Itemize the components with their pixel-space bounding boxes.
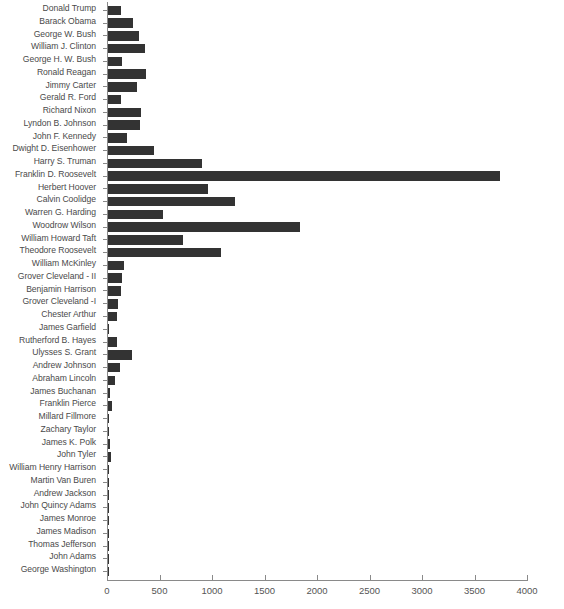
category-label: Millard Fillmore	[39, 411, 96, 422]
category-label: Calvin Coolidge	[37, 194, 96, 205]
category-label: James Monroe	[40, 513, 96, 524]
bar	[107, 184, 208, 194]
category-label: William McKinley	[32, 258, 96, 269]
category-label: Andrew Jackson	[34, 488, 96, 499]
bar	[107, 171, 500, 181]
category-label: Theodore Roosevelt	[20, 245, 97, 256]
category-label: James Madison	[36, 526, 96, 537]
x-tick-mark	[265, 575, 266, 581]
bar	[107, 82, 137, 92]
x-tick-mark	[527, 575, 528, 581]
y-axis-line	[107, 2, 108, 580]
bar	[107, 95, 121, 105]
category-label: John Quincy Adams	[20, 500, 96, 511]
category-label: Harry S. Truman	[34, 156, 96, 167]
bar	[107, 31, 139, 41]
bar	[107, 6, 121, 16]
bar	[107, 133, 127, 143]
category-label: Ulysses S. Grant	[32, 347, 96, 358]
presidents-bar-chart: Donald TrumpBarack ObamaGeorge W. BushWi…	[0, 0, 564, 609]
x-tick-label: 2500	[359, 585, 380, 596]
bar	[107, 376, 115, 386]
category-label: Grover Cleveland -I	[22, 296, 96, 307]
bar	[107, 222, 300, 232]
x-tick-label: 1500	[254, 585, 275, 596]
category-label: Donald Trump	[43, 3, 96, 14]
category-label: Grover Cleveland - II	[18, 271, 96, 282]
category-label: William J. Clinton	[31, 41, 96, 52]
category-label: George W. Bush	[34, 29, 96, 40]
category-label: Herbert Hoover	[38, 182, 96, 193]
category-label: Zachary Taylor	[41, 424, 97, 435]
category-label: Dwight D. Eisenhower	[12, 143, 96, 154]
bar	[107, 363, 120, 373]
category-label: John F. Kennedy	[33, 131, 96, 142]
x-tick-mark	[370, 575, 371, 581]
x-tick-mark	[160, 575, 161, 581]
category-label: Richard Nixon	[43, 105, 96, 116]
bar	[107, 273, 122, 283]
bar	[107, 69, 146, 79]
x-tick-mark	[475, 575, 476, 581]
category-label: Chester Arthur	[41, 309, 96, 320]
x-tick-mark	[212, 575, 213, 581]
category-label: James Buchanan	[30, 386, 96, 397]
bar	[107, 108, 141, 118]
x-tick-mark	[317, 575, 318, 581]
bar	[107, 286, 121, 296]
x-tick-label: 0	[104, 585, 109, 596]
x-tick-label: 2000	[306, 585, 327, 596]
category-label: Benjamin Harrison	[26, 284, 96, 295]
category-label: George H. W. Bush	[23, 54, 96, 65]
category-label: Lyndon B. Johnson	[24, 118, 96, 129]
category-label: George Washington	[21, 564, 96, 575]
plot-area: Donald TrumpBarack ObamaGeorge W. BushWi…	[0, 0, 564, 580]
x-tick-label: 3500	[464, 585, 485, 596]
bar	[107, 312, 117, 322]
bar	[107, 210, 163, 220]
bar	[107, 120, 140, 130]
bar	[107, 57, 122, 67]
bar	[107, 146, 154, 156]
x-tick-label: 1000	[201, 585, 222, 596]
category-label: Andrew Johnson	[33, 360, 96, 371]
category-label: Ronald Reagan	[37, 67, 96, 78]
category-label: William Henry Harrison	[9, 462, 96, 473]
bar	[107, 18, 133, 28]
category-label: Franklin Pierce	[39, 398, 96, 409]
category-label: Woodrow Wilson	[32, 220, 96, 231]
bar	[107, 159, 202, 169]
category-label: Martin Van Buren	[31, 475, 96, 486]
category-label: Abraham Lincoln	[32, 373, 96, 384]
x-tick-mark	[107, 575, 108, 581]
category-label: Barack Obama	[39, 16, 96, 27]
bar	[107, 235, 183, 245]
x-tick-label: 500	[152, 585, 168, 596]
bar	[107, 337, 117, 347]
bar-row: George Washington	[0, 565, 564, 578]
bar	[107, 44, 145, 54]
category-label: James Garfield	[39, 322, 96, 333]
category-label: Franklin D. Roosevelt	[15, 169, 96, 180]
x-tick-label: 3000	[411, 585, 432, 596]
category-label: Rutherford B. Hayes	[19, 335, 96, 346]
category-label: Gerald R. Ford	[40, 92, 96, 103]
bar	[107, 299, 118, 309]
category-label: John Adams	[49, 551, 96, 562]
category-label: Warren G. Harding	[25, 207, 96, 218]
x-tick-mark	[422, 575, 423, 581]
category-label: James K. Polk	[42, 437, 96, 448]
category-label: Thomas Jefferson	[28, 539, 96, 550]
x-tick-label: 4000	[516, 585, 537, 596]
bar	[107, 350, 132, 360]
bar	[107, 197, 235, 207]
category-label: John Tyler	[57, 449, 96, 460]
bar	[107, 248, 221, 258]
bar	[107, 261, 124, 271]
category-label: Jimmy Carter	[46, 80, 96, 91]
category-label: William Howard Taft	[21, 233, 96, 244]
